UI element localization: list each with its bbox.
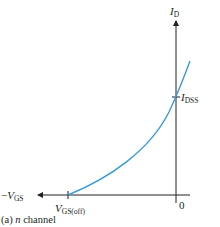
idss-label: IDSS: [181, 92, 198, 103]
vgs-off-symbol: V: [55, 202, 62, 214]
origin-label: 0: [179, 200, 185, 211]
transfer-characteristic-plot: [0, 0, 220, 227]
vgs-off-subscript: GS(off): [62, 207, 85, 216]
id-axis-label: ID: [170, 6, 179, 17]
vgs-off-label: VGS(off): [55, 203, 85, 214]
caption-suffix: channel: [21, 214, 56, 225]
transfer-curve: [68, 61, 190, 195]
id-subscript: D: [174, 10, 179, 19]
figure-caption: (a) n channel: [1, 215, 56, 226]
vgs-symbol: V: [7, 189, 14, 201]
vgs-subscript: GS: [14, 194, 24, 203]
idss-subscript: DSS: [185, 96, 199, 105]
vgs-axis-label: −VGS: [1, 190, 24, 201]
caption-prefix: (a): [1, 214, 15, 225]
